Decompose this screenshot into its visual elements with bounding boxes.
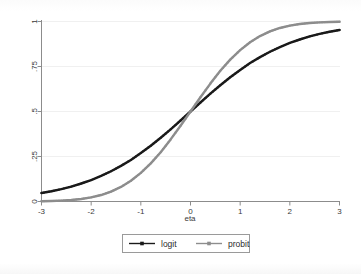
series-marker: [284, 44, 286, 46]
series-marker: [90, 196, 92, 198]
series-marker: [120, 186, 122, 188]
series-marker: [306, 36, 308, 38]
series-marker: [234, 73, 236, 75]
series-marker: [100, 175, 102, 177]
series-marker: [331, 21, 333, 23]
legend-label-logit: logit: [161, 239, 177, 249]
series-marker: [212, 91, 214, 93]
series-marker: [229, 59, 231, 61]
series-marker: [247, 64, 249, 66]
series-marker: [137, 174, 139, 176]
series-marker: [103, 174, 105, 176]
series-marker: [254, 38, 256, 40]
series-marker: [304, 37, 306, 39]
series-marker: [78, 198, 80, 200]
legend: logitprobit: [123, 235, 250, 253]
series-marker: [78, 183, 80, 185]
series-marker: [135, 156, 137, 158]
series-marker: [56, 200, 58, 202]
series-marker: [105, 192, 107, 194]
series-marker: [145, 148, 147, 150]
x-tick-label: -2: [88, 207, 96, 216]
series-marker: [205, 90, 207, 92]
series-marker: [336, 21, 338, 23]
series-marker: [135, 176, 137, 178]
series-marker: [65, 187, 67, 189]
series-marker: [291, 41, 293, 43]
series-marker: [274, 29, 276, 31]
series-marker: [257, 37, 259, 39]
series-marker: [244, 66, 246, 68]
series-marker: [90, 179, 92, 181]
series-marker: [182, 121, 184, 123]
series-marker: [259, 35, 261, 37]
series-marker: [75, 199, 77, 201]
series-marker: [244, 45, 246, 47]
y-tick-label: .25: [30, 150, 39, 162]
x-axis-title: eta: [184, 214, 196, 223]
series-marker: [51, 200, 53, 202]
series-marker: [155, 157, 157, 159]
series-marker: [43, 192, 45, 194]
series-marker: [80, 198, 82, 200]
series-marker: [180, 125, 182, 127]
series-marker: [85, 197, 87, 199]
series-marker: [73, 185, 75, 187]
series-marker: [316, 22, 318, 24]
series-marker: [95, 195, 97, 197]
series-marker: [197, 104, 199, 106]
series-marker: [41, 200, 43, 202]
series-marker: [207, 95, 209, 97]
series-marker: [48, 191, 50, 193]
series-marker: [115, 188, 117, 190]
series-marker: [291, 24, 293, 26]
series-marker: [142, 170, 144, 172]
x-tick-label: 1: [238, 207, 243, 216]
series-marker: [281, 27, 283, 29]
series-marker: [145, 167, 147, 169]
series-marker: [175, 132, 177, 134]
series-marker: [118, 187, 120, 189]
series-marker: [46, 191, 48, 193]
series-marker: [227, 78, 229, 80]
series-marker: [175, 124, 177, 126]
series-marker: [254, 59, 256, 61]
series-marker: [289, 42, 291, 44]
series-marker: [83, 198, 85, 200]
series-marker: [110, 170, 112, 172]
series-marker: [219, 70, 221, 72]
series-marker: [165, 145, 167, 147]
series-marker: [93, 178, 95, 180]
series-marker: [41, 192, 43, 194]
series-marker: [237, 71, 239, 73]
series-marker: [200, 96, 202, 98]
series-marker: [162, 148, 164, 150]
series-marker: [249, 62, 251, 64]
x-tick-label: 3: [337, 207, 342, 216]
series-marker: [177, 122, 179, 124]
series-marker: [286, 43, 288, 45]
series-marker: [281, 45, 283, 47]
series-marker: [53, 190, 55, 192]
series-marker: [180, 120, 182, 122]
series-marker: [120, 165, 122, 167]
series-marker: [272, 30, 274, 32]
series-marker: [128, 161, 130, 163]
series-marker: [150, 162, 152, 164]
series-marker: [125, 183, 127, 185]
series-marker: [85, 181, 87, 183]
series-marker: [269, 31, 271, 33]
series-marker: [170, 128, 172, 130]
series-marker: [98, 176, 100, 178]
series-marker: [319, 22, 321, 24]
series-marker: [222, 82, 224, 84]
series-marker: [304, 23, 306, 25]
series-marker: [103, 193, 105, 195]
series-marker: [108, 172, 110, 174]
series-marker: [209, 93, 211, 95]
series-marker: [324, 21, 326, 23]
series-marker: [110, 191, 112, 193]
series-marker: [217, 86, 219, 88]
series-marker: [249, 41, 251, 43]
series-marker: [222, 67, 224, 69]
